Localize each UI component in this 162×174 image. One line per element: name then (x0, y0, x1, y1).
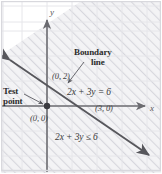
test-point-annotation-line2: point (3, 96, 37, 106)
test-point-annotation-line1: Test (3, 86, 18, 96)
boundary-equation-label: 2x + 3y = 6 (67, 88, 111, 98)
inequality-graph-figure: y x Boundary line Test point (0, 2) (3, … (0, 0, 162, 174)
boundary-line-annotation: Boundary line (74, 47, 136, 67)
y-axis-label: y (50, 8, 54, 17)
x-axis-label: x (150, 104, 154, 113)
point-label-0-0: (0, 0) (30, 114, 48, 123)
boundary-line-annotation-line1: Boundary (74, 47, 112, 57)
inequality-label: 2x + 3y ≤ 6 (55, 133, 98, 143)
test-point-marker (44, 103, 50, 109)
boundary-line-annotation-line2: line (91, 57, 136, 67)
point-label-3-0: (3, 0) (95, 104, 113, 113)
test-point-annotation: Test point (3, 86, 37, 106)
point-label-0-2: (0, 2) (52, 72, 70, 81)
